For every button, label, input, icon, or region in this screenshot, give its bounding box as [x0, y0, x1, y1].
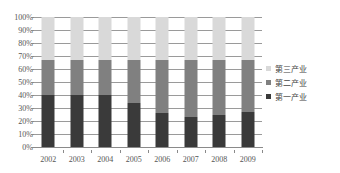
stacked-bar[interactable] [213, 17, 226, 147]
stacked-bar[interactable] [127, 17, 140, 147]
x-axis-line [34, 147, 263, 148]
plot-area [34, 17, 262, 147]
bar-segment[interactable] [156, 113, 169, 147]
bar-segment[interactable] [99, 95, 112, 147]
stacked-bar[interactable] [99, 17, 112, 147]
bar-segment[interactable] [213, 115, 226, 148]
bar-segment[interactable] [241, 17, 254, 60]
legend-swatch-icon [266, 94, 271, 99]
x-axis-tick [234, 150, 235, 153]
x-axis-tick [205, 150, 206, 153]
chart-legend: 第三产业第二产业第一产业 [266, 64, 340, 106]
bar-segment[interactable] [127, 17, 140, 60]
bar-segment[interactable] [42, 17, 55, 60]
stacked-bar[interactable] [241, 17, 254, 147]
bar-segment[interactable] [184, 117, 197, 147]
x-axis-tick-label: 2004 [97, 155, 113, 164]
bar-group [34, 17, 63, 147]
bar-group [234, 17, 263, 147]
legend-item[interactable]: 第二产业 [266, 78, 340, 87]
bar-segment[interactable] [213, 60, 226, 115]
x-axis-tick [148, 150, 149, 153]
x-axis-tick [63, 150, 64, 153]
bar-group [177, 17, 206, 147]
bar-group [63, 17, 92, 147]
bar-segment[interactable] [156, 17, 169, 60]
bar-segment[interactable] [70, 60, 83, 95]
bar-segment[interactable] [42, 95, 55, 147]
y-axis: 100%90%80%70%60%50%40%30%20%10%0% [0, 0, 33, 173]
x-axis-tick [262, 150, 263, 153]
legend-label: 第三产业 [275, 63, 307, 74]
x-axis-tick [120, 150, 121, 153]
legend-label: 第一产业 [275, 91, 307, 102]
x-axis-tick-label: 2006 [154, 155, 170, 164]
legend-swatch-icon [266, 80, 271, 85]
x-axis-tick-label: 2007 [183, 155, 199, 164]
x-axis-tick-label: 2008 [211, 155, 227, 164]
bar-group [91, 17, 120, 147]
bar-segment[interactable] [99, 17, 112, 60]
legend-swatch-icon [266, 66, 271, 71]
bar-segment[interactable] [42, 60, 55, 95]
x-axis-tick [177, 150, 178, 153]
stacked-bar[interactable] [156, 17, 169, 147]
bar-group [120, 17, 149, 147]
x-axis-tick [91, 150, 92, 153]
legend-label: 第二产业 [275, 77, 307, 88]
bar-segment[interactable] [184, 17, 197, 60]
x-axis-tick-label: 2002 [40, 155, 56, 164]
legend-item[interactable]: 第一产业 [266, 92, 340, 101]
stacked-bar[interactable] [70, 17, 83, 147]
bar-segment[interactable] [70, 17, 83, 60]
bar-segment[interactable] [213, 17, 226, 60]
bar-segment[interactable] [70, 95, 83, 147]
bar-group [205, 17, 234, 147]
x-axis-tick-label: 2005 [126, 155, 142, 164]
bar-segment[interactable] [241, 112, 254, 147]
bar-group [148, 17, 177, 147]
bar-segment[interactable] [156, 60, 169, 113]
bar-segment[interactable] [184, 60, 197, 117]
x-axis-tick-label: 2003 [69, 155, 85, 164]
legend-item[interactable]: 第三产业 [266, 64, 340, 73]
bar-segment[interactable] [99, 60, 112, 95]
stacked-bar-chart: 100%90%80%70%60%50%40%30%20%10%0% 200220… [0, 0, 340, 173]
x-axis: 20022003200420052006200720082009 [34, 150, 263, 170]
x-axis-tick-label: 2009 [240, 155, 256, 164]
stacked-bar[interactable] [184, 17, 197, 147]
bar-segment[interactable] [241, 60, 254, 112]
stacked-bar[interactable] [42, 17, 55, 147]
bar-segment[interactable] [127, 103, 140, 147]
bar-segment[interactable] [127, 60, 140, 103]
